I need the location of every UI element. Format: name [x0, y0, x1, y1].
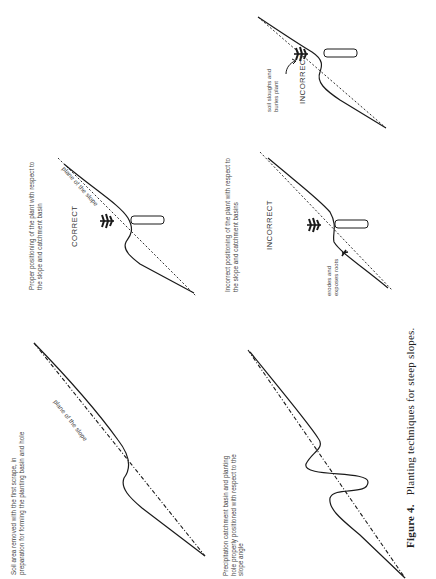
panel-incorrect-low-description: Incorrect positioning of the plant with … [224, 158, 239, 292]
panel-incorrect-high-verdict: INCORRECT [298, 54, 307, 104]
panel-scrape-drawing [34, 343, 205, 556]
panel-basin-description: Precipitation catchment basin and planti… [222, 454, 245, 576]
slope-diagrams [0, 0, 436, 579]
panel-scrape-description: Soil area removed with the first scrape,… [10, 432, 25, 575]
figure-number: Figure 4. [404, 504, 416, 548]
figure-title: Planting techniques for steep slopes. [404, 327, 416, 495]
figure-caption: Figure 4.Planting techniques for steep s… [404, 327, 416, 548]
panel-correct-verdict: CORRECT [70, 206, 79, 247]
panel-correct-description: Proper positioning of the plant with res… [28, 162, 43, 290]
panel-incorrect-low-note: erodes and exposes roots [326, 259, 340, 296]
panel-incorrect-low-verdict: INCORRECT [265, 200, 274, 250]
panel-basin-drawing [248, 350, 405, 578]
panel-incorrect-high-note: soil sloughs and buries plant [266, 69, 280, 112]
